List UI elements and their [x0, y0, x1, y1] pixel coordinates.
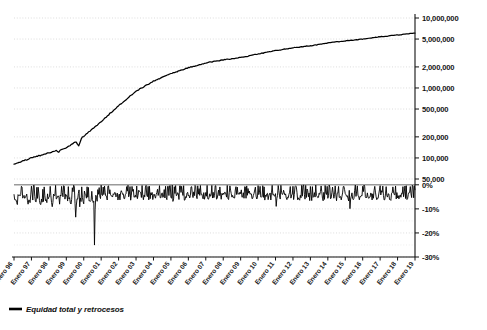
y-axis-tick-label: -20% [422, 229, 440, 238]
y-axis-tick-label: 1,000,000 [422, 84, 454, 93]
y-axis-tick-label: -30% [422, 253, 440, 262]
y-axis-tick-label: 10,000,000 [422, 14, 459, 23]
chart-legend: Equidad total y retrocesos [9, 305, 125, 314]
equity-drawdown-chart: 10,000,0005,000,0002,000,0001,000,000500… [0, 0, 487, 330]
y-axis-tick-label: -10% [422, 205, 440, 214]
y-axis-tick-label: 0% [422, 181, 433, 190]
y-axis-tick-label: 5,000,000 [422, 35, 454, 44]
y-axis-tick-label: 500,000 [422, 105, 448, 114]
legend-label: Equidad total y retrocesos [26, 305, 125, 314]
chart-container: 10,000,0005,000,0002,000,0001,000,000500… [0, 0, 487, 330]
y-axis-tick-label: 2,000,000 [422, 63, 454, 72]
y-axis-tick-label: 100,000 [422, 154, 448, 163]
y-axis-tick-label: 200,000 [422, 133, 448, 142]
